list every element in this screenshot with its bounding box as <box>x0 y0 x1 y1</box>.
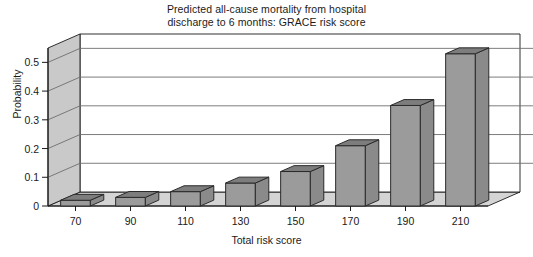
bar-110 <box>171 186 214 206</box>
bar-210 <box>446 48 489 206</box>
bar-190 <box>391 100 434 206</box>
x-axis-tick-label: 90 <box>125 215 137 227</box>
bar-chart-plot: 00.10.20.30.40.57090110130150170190210 <box>0 0 533 257</box>
x-axis-tick-label: 130 <box>232 215 250 227</box>
x-axis-tick-label: 150 <box>287 215 305 227</box>
x-axis-tick-label: 210 <box>452 215 470 227</box>
x-axis-tick-label: 190 <box>397 215 415 227</box>
bar-130 <box>226 177 269 206</box>
chart-container: Predicted all-cause mortality from hospi… <box>0 0 533 257</box>
bar-170 <box>336 140 379 206</box>
x-axis-tick-label: 110 <box>177 215 194 227</box>
x-axis-tick-label: 70 <box>70 215 82 227</box>
y-axis-tick-label: 0.3 <box>24 114 39 126</box>
y-axis-tick-label: 0 <box>33 200 39 212</box>
y-axis-tick-label: 0.2 <box>24 143 39 155</box>
x-axis-tick-label: 170 <box>342 215 360 227</box>
y-axis-tick-label: 0.5 <box>24 56 39 68</box>
bar-150 <box>281 166 324 206</box>
y-axis-tick-label: 0.1 <box>24 171 39 183</box>
y-axis-tick-label: 0.4 <box>24 85 39 97</box>
